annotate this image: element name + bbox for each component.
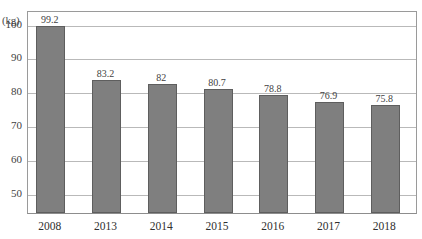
bar-value-label: 99.2 [27, 14, 72, 25]
gridline [28, 59, 416, 60]
bar [36, 26, 65, 213]
bar-value-label: 82 [139, 72, 184, 83]
y-axis-tick-label: 90 [0, 52, 22, 63]
x-axis-tick-label: 2017 [303, 219, 354, 233]
y-axis-tick-label: 60 [0, 154, 22, 165]
bar [259, 95, 288, 213]
bar [315, 102, 344, 213]
x-axis-tick-label: 2016 [247, 219, 298, 233]
x-axis-tick-label: 2013 [80, 219, 131, 233]
bar [148, 84, 177, 213]
y-axis-tick-label: 70 [0, 120, 22, 131]
bar-chart: (kg) 100908070605099.2200883.22013822014… [0, 0, 422, 239]
gridline [28, 26, 416, 27]
x-axis-tick-label: 2014 [136, 219, 187, 233]
x-axis-tick-label: 2008 [24, 219, 75, 233]
y-axis-tick-label: 100 [0, 19, 22, 30]
y-axis-tick-label: 80 [0, 86, 22, 97]
bar-value-label: 78.8 [250, 83, 295, 94]
bar-value-label: 76.9 [306, 90, 351, 101]
bar-value-label: 83.2 [83, 68, 128, 79]
x-axis-tick-label: 2018 [359, 219, 410, 233]
bar-value-label: 75.8 [362, 93, 407, 104]
plot-area [27, 11, 417, 214]
bar [204, 89, 233, 213]
bar [92, 80, 121, 213]
x-axis-tick-label: 2015 [192, 219, 243, 233]
y-axis-tick-label: 50 [0, 188, 22, 199]
bar-value-label: 80.7 [195, 77, 240, 88]
bar [371, 105, 400, 213]
